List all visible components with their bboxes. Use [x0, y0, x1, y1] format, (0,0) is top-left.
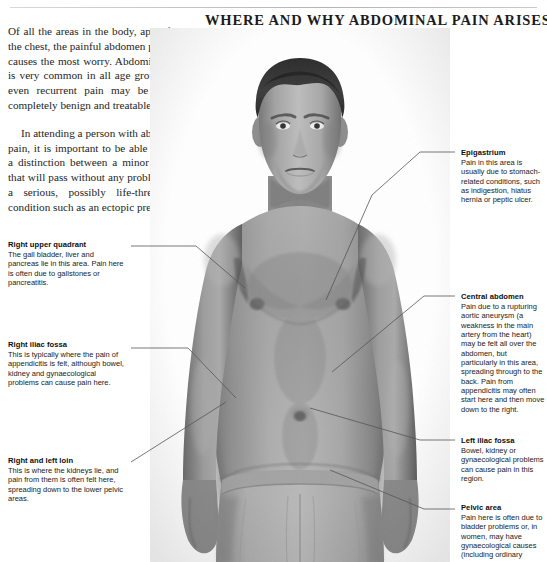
callout-title: Epigastrium	[461, 148, 545, 157]
callout-title: Right upper quadrant	[8, 240, 126, 249]
callout-body: Pain in this area is usually due to stom…	[461, 158, 545, 205]
callout-title: Central abdomen	[461, 292, 545, 301]
callout-body: Pain here is often due to bladder proble…	[461, 513, 545, 560]
callout-body: Bowel, kidney or gynaecological problems…	[461, 446, 545, 483]
top-divider-rule	[10, 7, 537, 8]
callout-title: Right and left loin	[8, 456, 126, 465]
callout-central-abdomen: Central abdomen Pain due to a rupturing …	[461, 292, 545, 414]
callout-body: The gall bladder, liver and pancreas lie…	[8, 250, 126, 287]
callout-pelvic-area: Pelvic area Pain here is often due to bl…	[461, 503, 545, 560]
callout-epigastrium: Epigastrium Pain in this area is usually…	[461, 148, 545, 205]
callout-title: Right iliac fossa	[8, 340, 126, 349]
callout-body: This is where the kidneys lie, and pain …	[8, 466, 126, 503]
callout-body: Pain due to a rupturing aortic aneurysm …	[461, 302, 545, 414]
anatomy-photo	[150, 28, 450, 562]
callout-right-iliac-fossa: Right iliac fossa This is typically wher…	[8, 340, 126, 387]
callout-title: Pelvic area	[461, 503, 545, 512]
page-title: WHERE AND WHY ABDOMINAL PAIN ARISES	[205, 12, 545, 29]
callout-title: Left iliac fossa	[461, 436, 545, 445]
callout-right-upper-quadrant: Right upper quadrant The gall bladder, l…	[8, 240, 126, 287]
page-root: WHERE AND WHY ABDOMINAL PAIN ARISES Of a…	[0, 0, 547, 562]
callout-left-iliac-fossa: Left iliac fossa Bowel, kidney or gynaec…	[461, 436, 545, 483]
callout-body: This is typically where the pain of appe…	[8, 350, 126, 387]
callout-right-and-left-loin: Right and left loin This is where the ki…	[8, 456, 126, 503]
